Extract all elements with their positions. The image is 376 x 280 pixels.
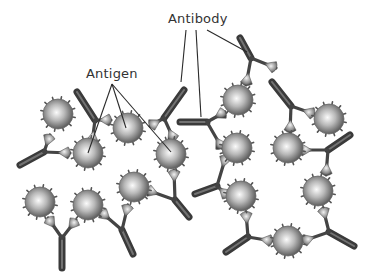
antigen-sphere [301,174,335,208]
antigen-sphere [312,102,346,136]
antibodies-layer [20,38,354,268]
antigen-sphere [271,131,305,165]
antibody [226,211,273,252]
antigen-label: Antigen [86,66,138,81]
antibody [300,135,351,176]
antigen-sphere [271,224,305,258]
antibody [149,90,184,141]
antigen-sphere [154,137,188,171]
antigen-sphere [41,97,75,131]
antibody [99,204,134,254]
antibody [146,169,189,217]
antigen-sphere [23,185,57,219]
antibody-label: Antibody [168,11,228,26]
antigen-sphere [224,179,258,213]
antibody [180,108,226,150]
antibody [272,82,315,133]
antibody-antigen-diagram [0,0,376,280]
antibody [44,216,79,268]
antibody [302,207,354,246]
leader-lines-layer [88,30,247,153]
antibody [20,134,71,165]
antibody [240,38,277,86]
antibody-leader-line [181,30,186,82]
antibody-leader-line [196,30,201,117]
antigen-sphere [117,170,151,204]
